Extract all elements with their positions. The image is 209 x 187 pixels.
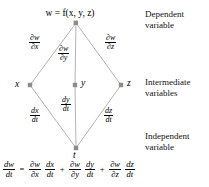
node-label-y: y xyxy=(81,79,85,89)
edge-label-dx-dt-den: dt xyxy=(30,116,40,124)
equation-term-1: ∂w ∂x dx dt xyxy=(29,160,55,179)
equation-term-3-ordinary: dz dt xyxy=(125,160,135,179)
chain-rule-equation: dw dt = ∂w ∂x dx dt + ∂w ∂y dy dt xyxy=(3,160,206,179)
label-intermediate-line1: Intermediate xyxy=(145,77,190,88)
node-w xyxy=(74,21,78,25)
equation-equals-sign: = xyxy=(17,164,27,174)
edge-label-dy-dt: dy dt xyxy=(61,96,71,114)
edge-label-dz-dt-den: dt xyxy=(104,116,113,124)
equation-plus-sign-1: + xyxy=(57,164,67,174)
equation-term-3: ∂w ∂z dz dt xyxy=(109,160,135,179)
node-y xyxy=(73,83,77,87)
node-x xyxy=(28,83,32,87)
chain-rule-figure: w = f(x, y, z) x y z t ∂w ∂x ∂w ∂y ∂w ∂z… xyxy=(0,0,209,187)
equation-term-1-ordinary: dx dt xyxy=(45,160,55,179)
edge-label-dx-dt: dx dt xyxy=(30,107,40,125)
equation-term-2-ordinary-den: dt xyxy=(85,170,95,179)
equation-term-2: ∂w ∂y dy dt xyxy=(69,160,95,179)
edge-label-dw-dx-den: ∂x xyxy=(29,43,40,51)
node-label-w: w = f(x, y, z) xyxy=(45,9,94,19)
edge-label-dz-dt: dz dt xyxy=(104,107,113,125)
edge-z-t xyxy=(76,85,121,148)
equation-lhs-den: dt xyxy=(3,170,15,179)
equation-term-2-partial-den: ∂y xyxy=(69,170,81,179)
node-label-x: x xyxy=(15,80,19,90)
label-independent-line1: Independent xyxy=(145,131,189,142)
equation-plus-sign-2: + xyxy=(97,164,107,174)
edge-label-dw-dz: ∂w ∂z xyxy=(105,34,116,52)
label-independent-variable: Independent variable xyxy=(145,131,189,152)
edge-y-t xyxy=(75,85,76,148)
equation-term-1-partial-den: ∂x xyxy=(29,170,41,179)
equation-term-3-partial-den: ∂z xyxy=(109,170,121,179)
equation-term-2-partial: ∂w ∂y xyxy=(69,160,81,179)
edge-label-dw-dy-den: ∂y xyxy=(58,54,69,62)
equation-term-1-partial: ∂w ∂x xyxy=(29,160,41,179)
label-intermediate-variables: Intermediate variables xyxy=(145,77,190,98)
equation-term-2-ordinary: dy dt xyxy=(85,160,95,179)
edge-label-dw-dy: ∂w ∂y xyxy=(58,45,69,63)
label-intermediate-line2: variables xyxy=(145,88,190,99)
equation-lhs: dw dt xyxy=(3,160,15,179)
edge-label-dw-dz-den: ∂z xyxy=(105,43,116,51)
equation-term-3-ordinary-den: dt xyxy=(125,170,135,179)
node-label-z: z xyxy=(127,79,131,89)
edge-label-dy-dt-den: dt xyxy=(61,105,71,113)
equation-term-3-partial: ∂w ∂z xyxy=(109,160,121,179)
label-dependent-line2: variable xyxy=(145,20,184,31)
label-dependent-variable: Dependent variable xyxy=(145,9,184,30)
equation-term-1-ordinary-den: dt xyxy=(45,170,55,179)
label-independent-line2: variable xyxy=(145,142,189,153)
edge-label-dw-dx: ∂w ∂x xyxy=(29,34,40,52)
node-z xyxy=(119,83,123,87)
edge-w-y xyxy=(75,23,76,85)
label-dependent-line1: Dependent xyxy=(145,9,184,20)
